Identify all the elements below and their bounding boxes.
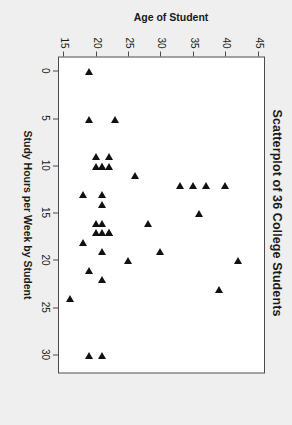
data-point	[105, 153, 113, 160]
y-axis-tick-label: 20	[91, 37, 102, 48]
y-axis-tick-label: 30	[156, 37, 167, 48]
data-point	[195, 210, 203, 217]
data-points-layer	[59, 57, 264, 372]
data-point	[157, 247, 165, 254]
y-axis: 15202530354045	[58, 20, 265, 56]
x-axis-tick-label: 25	[40, 301, 51, 312]
data-point	[98, 200, 106, 207]
data-point	[215, 285, 223, 292]
x-axis-tick-label: 30	[40, 349, 51, 360]
data-point	[189, 181, 197, 188]
data-point	[234, 257, 242, 264]
y-axis-tick	[128, 51, 129, 56]
x-axis-tick-label: 10	[40, 159, 51, 170]
data-point	[92, 229, 100, 236]
y-axis-tick	[258, 51, 259, 56]
data-point	[176, 181, 184, 188]
y-axis-tick	[63, 51, 64, 56]
data-point	[79, 238, 87, 245]
scatterplot-figure: Scatterplot of 36 College Students 05101…	[0, 0, 292, 425]
data-point	[98, 247, 106, 254]
x-axis-tick	[53, 118, 58, 119]
data-point	[98, 276, 106, 283]
x-axis-label: Study Hours per Week by Student	[22, 56, 34, 373]
y-axis-tick-label: 35	[188, 37, 199, 48]
data-point	[92, 162, 100, 169]
data-point	[92, 153, 100, 160]
x-axis-tick	[53, 70, 58, 71]
rotated-figure-container: Scatterplot of 36 College Students 05101…	[0, 0, 292, 425]
x-axis-tick-label: 5	[40, 115, 51, 121]
x-axis-tick	[53, 354, 58, 355]
y-axis-tick-label: 15	[59, 37, 70, 48]
x-axis-tick	[53, 165, 58, 166]
x-axis-tick	[53, 212, 58, 213]
y-axis-tick	[225, 51, 226, 56]
data-point	[85, 115, 93, 122]
data-point	[221, 181, 229, 188]
data-point	[85, 352, 93, 359]
data-point	[92, 219, 100, 226]
y-axis-tick	[96, 51, 97, 56]
data-point	[98, 191, 106, 198]
y-axis-tick-label: 25	[124, 37, 135, 48]
data-point	[111, 115, 119, 122]
x-axis-tick	[53, 259, 58, 260]
x-axis-tick-label: 0	[40, 67, 51, 73]
data-point	[66, 295, 74, 302]
data-point	[202, 181, 210, 188]
data-point	[79, 191, 87, 198]
data-point	[85, 266, 93, 273]
data-point	[98, 352, 106, 359]
y-axis-tick-label: 45	[253, 37, 264, 48]
data-point	[144, 219, 152, 226]
chart-title: Scatterplot of 36 College Students	[270, 0, 284, 425]
plot-panel	[58, 56, 265, 373]
y-axis-tick	[161, 51, 162, 56]
y-axis-tick-label: 40	[221, 37, 232, 48]
data-point	[124, 257, 132, 264]
y-axis-label: Age of Student	[111, 10, 231, 22]
data-point	[105, 229, 113, 236]
x-axis-tick	[53, 307, 58, 308]
x-axis-tick-label: 20	[40, 254, 51, 265]
x-axis-tick-label: 15	[40, 207, 51, 218]
data-point	[131, 172, 139, 179]
data-point	[85, 68, 93, 75]
y-axis-tick	[193, 51, 194, 56]
